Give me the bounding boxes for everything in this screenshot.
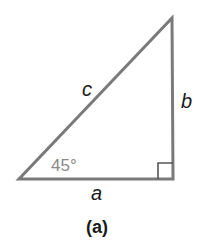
- angle-label: 45°: [51, 156, 77, 175]
- figure-caption: (a): [86, 217, 108, 237]
- right-angle-marker: [158, 163, 173, 179]
- right-triangle-diagram: c b a 45° (a): [0, 0, 209, 246]
- horizontal-leg-label: a: [91, 182, 102, 204]
- triangle: [19, 18, 173, 179]
- hypotenuse-label: c: [82, 78, 92, 100]
- vertical-leg-label: b: [181, 90, 192, 112]
